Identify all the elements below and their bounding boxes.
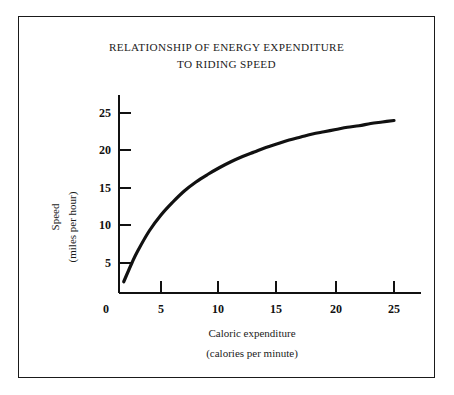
y-axis-title-line-1: Speed — [49, 203, 61, 230]
x-axis-ticks — [161, 281, 394, 293]
x-tick-label-15: 15 — [270, 302, 282, 316]
figure-frame: RELATIONSHIP OF ENERGY EXPENDITURE TO RI… — [18, 16, 435, 378]
x-axis-title: Caloric expenditure (calories per minute… — [206, 327, 298, 360]
y-tick-label-5: 5 — [105, 256, 111, 270]
data-curve — [124, 121, 394, 282]
x-tick-label-5: 5 — [158, 302, 164, 316]
x-tick-label-0: 0 — [103, 302, 109, 316]
x-tick-label-10: 10 — [212, 302, 224, 316]
x-tick-label-25: 25 — [388, 302, 400, 316]
y-axis-tick-labels: 25 20 15 10 5 — [99, 106, 111, 270]
x-axis-title-line-2: (calories per minute) — [206, 347, 298, 360]
y-tick-label-10: 10 — [99, 218, 111, 232]
y-tick-label-20: 20 — [99, 143, 111, 157]
x-axis-title-line-1: Caloric expenditure — [208, 327, 295, 339]
x-tick-label-20: 20 — [330, 302, 342, 316]
y-axis-ticks — [119, 113, 131, 263]
y-tick-label-25: 25 — [99, 106, 111, 120]
y-axis-title: Speed (miles per hour) — [49, 191, 79, 262]
y-axis-title-line-2: (miles per hour) — [66, 191, 79, 262]
x-axis-tick-labels: 0 5 10 15 20 25 — [103, 302, 400, 316]
line-chart-plot: 25 20 15 10 5 0 5 10 15 20 25 Caloric ex — [19, 17, 433, 376]
y-tick-label-15: 15 — [99, 181, 111, 195]
